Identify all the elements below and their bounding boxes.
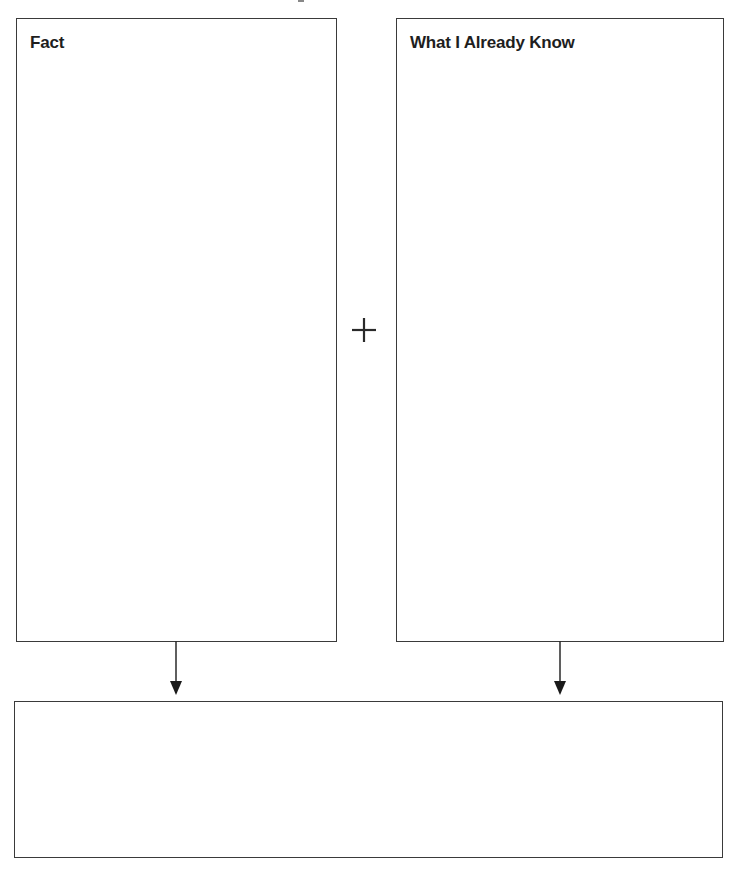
know-box-title: What I Already Know (410, 33, 575, 53)
arrow-down-icon (552, 641, 568, 697)
inference-result-box (14, 701, 723, 858)
what-i-already-know-box: What I Already Know (396, 18, 724, 642)
fact-box: Fact (16, 18, 337, 642)
result-box-writing-area[interactable] (15, 702, 722, 857)
arrow-down-icon (168, 641, 184, 697)
cropped-heading-fragment (298, 0, 304, 2)
fact-box-title: Fact (30, 33, 64, 53)
fact-box-writing-area[interactable] (17, 63, 336, 641)
know-box-writing-area[interactable] (397, 63, 723, 641)
plus-icon (350, 316, 378, 344)
